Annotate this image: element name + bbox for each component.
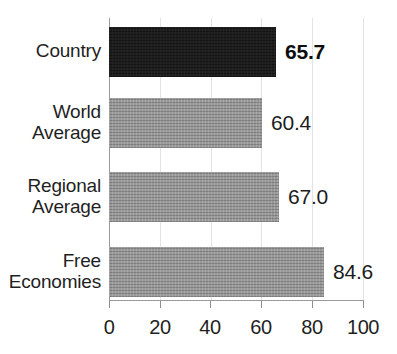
tick-0 [109,301,110,308]
bar-regional-average[interactable]: 67.0 [109,172,279,222]
bar-country-fill [109,27,276,77]
bar-world-average-value: 60.4 [271,111,311,135]
bar-free-economies-value: 84.6 [333,260,373,284]
tick-100 [363,301,364,308]
tick-80 [312,301,313,308]
category-label-country-line-1: Country [0,40,101,61]
bar-chart: 65.7 60.4 67.0 84.6 Country World Averag… [0,0,397,354]
x-tick-label-60: 60 [250,316,271,339]
category-label-world-average-line-2: Average [0,122,101,143]
category-label-country: Country [0,40,101,61]
tick-20 [160,301,161,308]
bar-regional-average-fill [109,172,279,222]
bar-world-average-fill [109,98,262,148]
category-label-free-economies-line-1: Free [0,250,101,271]
bar-world-average[interactable]: 60.4 [109,98,262,148]
bar-free-economies[interactable]: 84.6 [109,247,324,297]
category-label-regional-average-line-1: Regional [0,175,101,196]
bar-free-economies-fill [109,247,324,297]
x-tick-label-0: 0 [104,316,115,339]
category-label-world-average-line-1: World [0,101,101,122]
category-label-regional-average: Regional Average [0,175,101,217]
gridline-100 [363,18,364,300]
x-tick-label-40: 40 [199,316,220,339]
bar-regional-average-value: 67.0 [288,185,328,209]
tick-40 [210,301,211,308]
plot-area: 65.7 60.4 67.0 84.6 [109,18,363,300]
bar-country-value: 65.7 [285,40,325,64]
category-label-free-economies: Free Economies [0,250,101,292]
tick-60 [261,301,262,308]
category-label-world-average: World Average [0,101,101,143]
x-tick-label-80: 80 [301,316,322,339]
x-axis-line [109,300,364,301]
x-tick-label-20: 20 [149,316,170,339]
x-tick-label-100: 100 [347,316,379,339]
category-label-free-economies-line-2: Economies [0,271,101,292]
category-label-regional-average-line-2: Average [0,196,101,217]
bar-country[interactable]: 65.7 [109,27,276,77]
